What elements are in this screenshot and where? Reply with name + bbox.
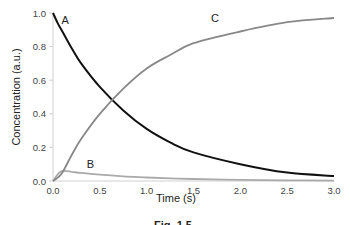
curve-labels: ABC [62, 12, 220, 170]
x-tick-label: 2.0 [234, 185, 247, 196]
x-tick-label: 3.0 [327, 185, 340, 196]
y-tick-label: 0.2 [33, 142, 46, 153]
x-tick-label: 0.0 [46, 185, 59, 196]
y-tick-label: 0.0 [33, 176, 46, 187]
x-axis-label: Time (s) [156, 192, 196, 204]
curve-label-c: C [211, 12, 219, 24]
y-tick-label: 1.0 [33, 8, 46, 19]
y-axis-label: Concentration (a.u.) [10, 48, 22, 145]
curve-label-a: A [62, 14, 70, 26]
series-a-line [53, 13, 334, 176]
series-c-line [53, 18, 334, 181]
x-tick-label: 2.5 [281, 185, 294, 196]
curves [53, 13, 334, 181]
x-tick-label: 1.0 [140, 185, 153, 196]
y-ticks: 0.00.20.40.60.81.0 [33, 8, 53, 187]
y-tick-label: 0.4 [33, 108, 46, 119]
x-tick-label: 0.5 [93, 185, 106, 196]
curve-label-b: B [87, 158, 94, 170]
chart: 0.00.20.40.60.81.0 0.00.51.01.52.02.53.0… [0, 0, 350, 225]
y-tick-label: 0.6 [33, 75, 46, 86]
y-tick-label: 0.8 [33, 41, 46, 52]
axes [53, 13, 334, 181]
figure-caption: Fig. 1.5 [154, 219, 192, 225]
